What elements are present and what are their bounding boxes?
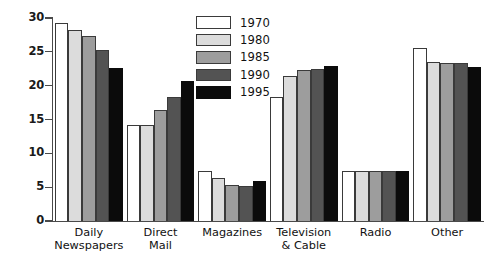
y-axis-tick-label: 30 (2, 12, 44, 24)
bar (140, 125, 154, 221)
bar-group (342, 18, 410, 221)
bar (413, 48, 427, 221)
legend-swatch (196, 69, 231, 82)
bar (68, 30, 82, 221)
y-axis-tick (45, 17, 53, 18)
y-axis-tick (45, 220, 53, 221)
bar (454, 63, 468, 221)
legend-swatch (196, 51, 231, 64)
bar (109, 68, 123, 221)
legend-item: 1980 (196, 31, 291, 48)
legend-swatch (196, 16, 231, 29)
legend-label: 1990 (240, 68, 270, 82)
bar (198, 171, 212, 221)
bar (225, 185, 239, 221)
y-axis-tick-label: 15 (2, 114, 44, 126)
bar-group (413, 18, 481, 221)
bar (311, 69, 325, 221)
y-axis-tick (45, 153, 53, 154)
bar (239, 186, 253, 221)
x-axis-category-label: Other (392, 226, 494, 239)
bar (440, 63, 454, 221)
bar (82, 36, 96, 221)
y-axis-tick (45, 187, 53, 188)
bar-group-bars (342, 18, 410, 221)
y-axis-tick-label: 25 (2, 46, 44, 58)
bar (253, 181, 267, 221)
bar (324, 66, 338, 221)
bar (167, 97, 181, 221)
legend-swatch (196, 34, 231, 47)
bar (396, 171, 410, 221)
legend-item: 1970 (196, 14, 291, 31)
legend-item: 1990 (196, 66, 291, 83)
y-axis-tick (45, 85, 53, 86)
bar (297, 70, 311, 221)
bar-group-bars (127, 18, 195, 221)
chart-legend: 19701980198519901995 (196, 14, 291, 101)
legend-label: 1985 (240, 50, 270, 64)
x-axis-line (52, 221, 484, 222)
bar (427, 62, 441, 221)
bar (212, 178, 226, 221)
bar (369, 171, 383, 221)
bar (181, 81, 195, 221)
bar-group-bars (413, 18, 481, 221)
x-axis-category-label-line: Mail (106, 239, 216, 252)
legend-label: 1995 (240, 85, 270, 99)
bar-chart: 051015202530 DailyNewspapersDirectMailMa… (0, 0, 494, 270)
bar (127, 125, 141, 221)
bar (154, 110, 168, 221)
x-axis-category-label-line: & Cable (249, 239, 359, 252)
bar (342, 171, 356, 221)
bar-group (55, 18, 123, 221)
bar (355, 171, 369, 221)
legend-item: 1985 (196, 49, 291, 66)
legend-swatch (196, 86, 231, 99)
y-axis-tick-label: 0 (2, 215, 44, 227)
bar (382, 171, 396, 221)
y-axis-tick-label: 5 (2, 181, 44, 193)
bar-group-bars (55, 18, 123, 221)
bar (468, 67, 482, 221)
bar (55, 23, 69, 221)
bar (270, 97, 284, 222)
y-axis-tick (45, 51, 53, 52)
y-axis-tick-label: 20 (2, 80, 44, 92)
x-axis-category-label-line: Other (392, 226, 494, 239)
legend-label: 1970 (240, 16, 270, 30)
legend-label: 1980 (240, 33, 270, 47)
y-axis-tick-label: 10 (2, 147, 44, 159)
legend-item: 1995 (196, 84, 291, 101)
bar (96, 50, 110, 221)
bar-group (127, 18, 195, 221)
y-axis-tick (45, 119, 53, 120)
